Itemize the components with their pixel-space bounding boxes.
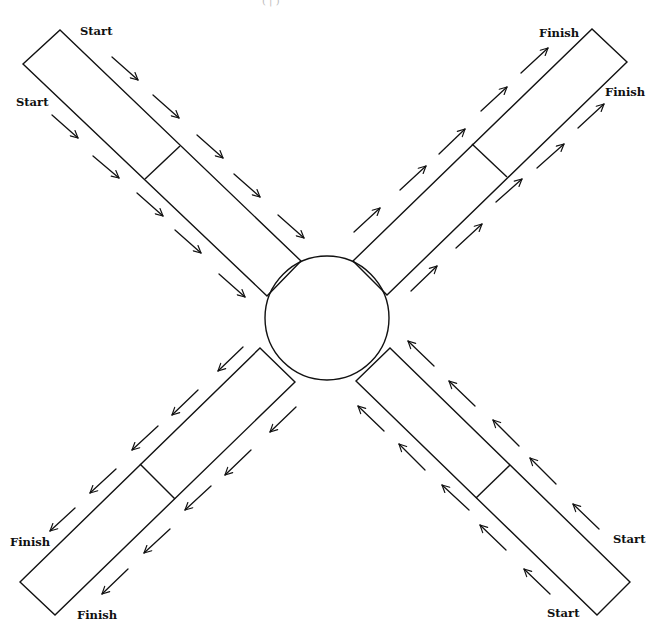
flow-arrow-icon xyxy=(278,215,304,238)
flow-arrow-icon xyxy=(496,179,522,202)
flow-arrow-icon xyxy=(144,529,170,553)
flow-arrow-icon xyxy=(524,569,550,594)
arm-top-left: StartStart xyxy=(16,24,304,297)
flow-arrow-icon xyxy=(153,95,179,118)
flow-arrow-icon xyxy=(537,144,564,168)
flow-arrow-icon xyxy=(573,504,599,529)
arm-bottom-left: FinishFinish xyxy=(10,347,296,622)
lane-divider xyxy=(472,144,507,177)
center-circle xyxy=(265,256,389,380)
flow-arrow-icon xyxy=(234,174,260,197)
flow-arrow-icon xyxy=(456,224,482,248)
arm-top-right: FinishFinish xyxy=(353,26,646,295)
flow-arrow-icon xyxy=(197,135,223,158)
flow-arrow-icon xyxy=(480,525,506,550)
flow-arrow-icon xyxy=(270,407,296,432)
lane-divider xyxy=(140,464,175,499)
lane-divider xyxy=(476,465,510,498)
flow-arrow-icon xyxy=(112,57,138,80)
start-label: Start xyxy=(16,95,49,109)
flow-arrow-icon xyxy=(408,341,434,366)
finish-label: Finish xyxy=(77,608,118,622)
lane-divider xyxy=(145,146,180,179)
flow-arrow-icon xyxy=(172,390,198,415)
flow-arrow-icon xyxy=(132,426,158,450)
flow-arrow-icon xyxy=(137,193,163,216)
start-label: Start xyxy=(547,606,580,620)
arms-layer: StartStartFinishFinishFinishFinishStartS… xyxy=(10,24,646,622)
flow-arrow-icon xyxy=(442,485,469,510)
flow-arrow-icon xyxy=(399,444,425,470)
finish-label: Finish xyxy=(10,535,51,549)
flow-arrow-icon xyxy=(411,266,437,291)
header-text-fragment: ( | ) xyxy=(262,0,280,7)
flow-arrow-icon xyxy=(90,469,116,493)
start-label: Start xyxy=(80,24,113,38)
flow-arrow-icon xyxy=(439,129,465,154)
flow-arrow-icon xyxy=(521,48,548,73)
flow-arrow-icon xyxy=(449,381,475,406)
flow-arrow-icon xyxy=(219,274,245,297)
flow-arrow-icon xyxy=(578,104,604,128)
flow-arrow-icon xyxy=(481,87,507,111)
flow-arrow-icon xyxy=(102,569,128,594)
flow-arrow-icon xyxy=(354,208,380,232)
flow-arrow-icon xyxy=(358,406,384,431)
finish-label: Finish xyxy=(539,26,580,40)
start-label: Start xyxy=(613,532,646,546)
flow-arrow-icon xyxy=(93,156,119,178)
finish-label: Finish xyxy=(605,85,646,99)
flow-arrow-icon xyxy=(50,508,75,531)
flow-arrow-icon xyxy=(493,420,519,446)
flow-arrow-icon xyxy=(185,486,211,510)
flow-arrow-icon xyxy=(400,166,426,190)
flow-arrow-icon xyxy=(225,450,251,475)
flow-arrow-icon xyxy=(530,458,556,484)
flow-arrow-icon xyxy=(52,115,78,138)
flow-arrow-icon xyxy=(175,230,201,253)
arm-bottom-right: StartStart xyxy=(356,341,646,620)
intersection-diagram: ( | ) StartStartFinishFinishFinishFinish… xyxy=(0,0,656,638)
lane-rectangle xyxy=(353,29,627,295)
